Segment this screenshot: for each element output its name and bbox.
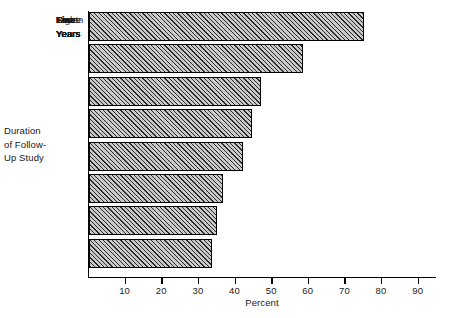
y-axis-title: Duration of Follow- Up Study (4, 124, 64, 165)
y-axis-title-line-2: of Follow- (4, 138, 64, 152)
x-axis-ticks: 102030405060708090 (88, 278, 436, 298)
x-tick-mark-70 (344, 278, 345, 284)
y-axis-tick-label-eight-years: Eight Years (56, 12, 86, 41)
bar-eight-years (89, 239, 212, 268)
x-tick-mark-30 (198, 278, 199, 284)
x-tick-mark-20 (161, 278, 162, 284)
bar-chart: Duration of Follow- Up Study One Year Tw… (0, 0, 450, 318)
x-tick-label-30: 30 (183, 285, 213, 297)
y-axis-title-line-1: Duration (4, 124, 64, 138)
label-line-2: Years (56, 27, 86, 41)
x-tick-mark-90 (418, 278, 419, 284)
bar-four-years (89, 109, 252, 138)
x-tick-label-80: 80 (366, 285, 396, 297)
bars-container (88, 11, 436, 278)
x-tick-mark-50 (271, 278, 272, 284)
bar-three-years (89, 77, 261, 106)
x-tick-mark-60 (308, 278, 309, 284)
bar-seven-years (89, 206, 217, 235)
y-axis-title-line-3: Up Study (4, 151, 64, 165)
x-tick-label-40: 40 (220, 285, 250, 297)
bar-five-years (89, 142, 243, 171)
x-tick-label-50: 50 (256, 285, 286, 297)
bar-two-years (89, 44, 303, 73)
x-tick-label-70: 70 (329, 285, 359, 297)
y-axis-tick-labels: One Year Two Years Three Years Four Year… (56, 12, 86, 268)
x-tick-mark-10 (125, 278, 126, 284)
x-tick-label-60: 60 (293, 285, 323, 297)
x-tick-label-20: 20 (146, 285, 176, 297)
bar-one-year (89, 12, 364, 41)
x-tick-label-10: 10 (110, 285, 140, 297)
x-tick-mark-80 (381, 278, 382, 284)
x-tick-label-90: 90 (403, 285, 433, 297)
x-axis-title: Percent (88, 297, 436, 308)
bar-six-years (89, 174, 223, 203)
x-tick-mark-40 (235, 278, 236, 284)
label-line-1: Eight (56, 13, 86, 27)
